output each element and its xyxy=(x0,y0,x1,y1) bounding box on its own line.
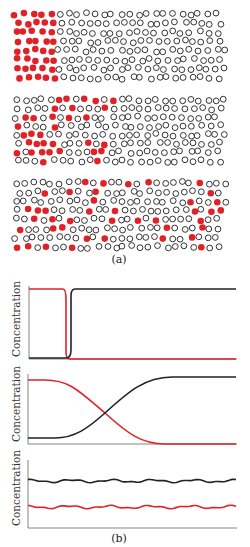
solvent-particle xyxy=(17,191,23,197)
solvent-particle xyxy=(145,106,151,112)
solvent-curve xyxy=(28,479,236,483)
solute-particle xyxy=(52,75,59,82)
solvent-particle xyxy=(179,115,185,121)
solvent-particle xyxy=(57,12,63,18)
solvent-particle xyxy=(188,123,194,129)
solvent-particle xyxy=(180,56,186,62)
solvent-particle xyxy=(172,244,178,250)
solute-particle xyxy=(49,29,56,36)
solvent-particle xyxy=(62,58,68,64)
solvent-particle xyxy=(90,180,96,186)
solvent-particle xyxy=(24,98,30,104)
solute-particle xyxy=(23,48,30,55)
solvent-particle xyxy=(96,244,102,250)
solvent-particle xyxy=(67,10,73,16)
solute-particle xyxy=(208,190,215,197)
solute-particle xyxy=(50,39,57,46)
solvent-particle xyxy=(92,11,98,17)
solvent-particle xyxy=(177,148,183,154)
solvent-particle xyxy=(119,243,125,249)
solvent-particle xyxy=(76,141,82,147)
solvent-particle xyxy=(213,98,219,104)
solvent-particle xyxy=(69,57,75,63)
solvent-particle xyxy=(48,199,54,205)
solvent-particle xyxy=(119,133,125,139)
solvent-particle xyxy=(182,106,188,112)
solvent-particle xyxy=(143,30,149,36)
solvent-particle xyxy=(56,131,62,137)
solvent-particle xyxy=(87,157,93,163)
solvent-particle xyxy=(136,65,142,71)
solvent-particle xyxy=(145,244,151,250)
solvent-particle xyxy=(206,31,212,37)
solvent-particle xyxy=(189,225,195,231)
solvent-particle xyxy=(79,159,85,165)
solute-particle xyxy=(37,132,44,139)
solvent-particle xyxy=(60,105,66,111)
solvent-particle xyxy=(23,149,29,155)
solvent-particle xyxy=(146,56,152,62)
solute-particle xyxy=(91,149,98,156)
solute-particle xyxy=(49,67,56,74)
solvent-particle xyxy=(198,39,204,45)
solvent-particle xyxy=(38,235,44,241)
solvent-particle xyxy=(153,131,159,137)
solvent-particle xyxy=(177,48,183,54)
solvent-particle xyxy=(52,189,58,195)
solvent-particle xyxy=(145,133,151,139)
solvent-particle xyxy=(67,198,73,204)
solvent-particle xyxy=(128,151,134,157)
solvent-particle xyxy=(98,116,104,122)
solute-particle xyxy=(50,141,57,148)
solute-particle xyxy=(91,197,98,204)
solvent-particle xyxy=(79,225,85,231)
solute-particle xyxy=(101,142,108,149)
solvent-particle xyxy=(199,142,205,148)
solvent-particle xyxy=(74,217,80,223)
solvent-particle xyxy=(170,28,176,34)
solute-particle xyxy=(189,234,196,241)
solvent-particle xyxy=(134,29,140,35)
solvent-particle xyxy=(188,12,194,18)
solvent-particle xyxy=(86,227,92,233)
particle-panel-equilibrium xyxy=(12,179,229,252)
solute-particle xyxy=(40,159,47,166)
solute-particle xyxy=(81,95,88,102)
solute-particle xyxy=(21,132,28,139)
solvent-particle xyxy=(57,234,63,240)
solvent-particle xyxy=(147,188,153,194)
solute-particle xyxy=(82,179,89,186)
solvent-particle xyxy=(16,140,22,146)
solvent-particle xyxy=(112,226,118,232)
solute-particle xyxy=(25,206,32,213)
solvent-particle xyxy=(163,98,169,104)
solvent-curve xyxy=(29,289,236,358)
solute-particle xyxy=(34,141,41,148)
solvent-particle xyxy=(29,234,35,240)
solvent-particle xyxy=(95,76,101,82)
concentration-chart-initial xyxy=(29,286,237,359)
solute-particle xyxy=(39,28,46,35)
solvent-particle xyxy=(165,160,171,166)
solvent-particle xyxy=(155,158,161,164)
solvent-particle xyxy=(155,209,161,215)
solvent-particle xyxy=(190,39,196,45)
solvent-particle xyxy=(120,47,126,53)
solvent-particle xyxy=(86,105,92,111)
solvent-particle xyxy=(56,215,62,221)
solvent-particle xyxy=(182,140,188,146)
solvent-particle xyxy=(113,122,119,128)
solvent-particle xyxy=(61,244,67,250)
solute-particle xyxy=(164,224,171,231)
solvent-particle xyxy=(147,38,153,44)
solvent-curve xyxy=(28,377,236,438)
solvent-particle xyxy=(223,199,229,205)
solute-particle xyxy=(112,208,119,215)
solute-particle xyxy=(21,10,28,17)
solvent-particle xyxy=(35,188,41,194)
solvent-particle xyxy=(103,21,109,27)
solvent-particle xyxy=(14,206,20,212)
solvent-particle xyxy=(67,140,73,146)
solvent-particle xyxy=(105,190,111,196)
solvent-particle xyxy=(107,31,113,37)
